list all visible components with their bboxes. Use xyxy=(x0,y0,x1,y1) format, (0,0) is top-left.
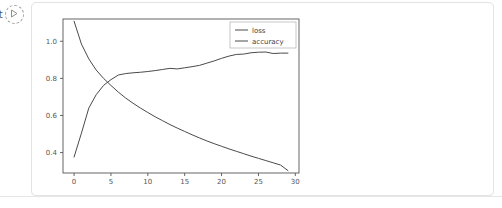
matplotlib-figure: 1.00.80.60.4 051015202530 lossaccuracy xyxy=(32,3,495,197)
x-tick-label: 5 xyxy=(109,178,113,186)
x-tick-label: 15 xyxy=(180,178,189,186)
y-tick-label: 0.6 xyxy=(46,112,58,120)
card-bottom-divider xyxy=(0,196,502,197)
run-cell-label: rt xyxy=(0,9,3,20)
y-tick-labels: 1.00.80.60.4 xyxy=(46,38,58,157)
x-tick-label: 10 xyxy=(143,178,152,186)
y-axis: 1.00.80.60.4 xyxy=(46,38,63,157)
x-tick-label: 20 xyxy=(217,178,226,186)
x-tick-label: 30 xyxy=(291,178,300,186)
chart-svg: 1.00.80.60.4 051015202530 lossaccuracy xyxy=(32,3,495,197)
y-tick-label: 1.0 xyxy=(46,38,57,46)
run-cell-control[interactable]: rt xyxy=(0,5,24,24)
chart-legend: lossaccuracy xyxy=(230,22,296,48)
x-tick-label: 0 xyxy=(72,178,76,186)
play-circle-icon[interactable] xyxy=(5,5,24,24)
x-axis: 051015202530 xyxy=(72,173,300,186)
x-tick-labels: 051015202530 xyxy=(72,178,300,186)
legend-label-accuracy: accuracy xyxy=(252,38,284,46)
x-tick-label: 25 xyxy=(254,178,263,186)
notebook-output-card: 1.00.80.60.4 051015202530 lossaccuracy xyxy=(31,2,494,196)
legend-label-loss: loss xyxy=(252,27,266,35)
y-tick-label: 0.4 xyxy=(46,149,58,157)
y-tick-label: 0.8 xyxy=(46,75,57,83)
